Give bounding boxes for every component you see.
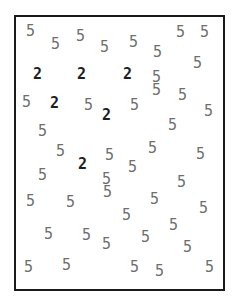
- distractor-glyph: 5: [62, 258, 71, 274]
- target-glyph: 2: [123, 67, 132, 83]
- distractor-glyph: 5: [26, 194, 35, 210]
- distractor-glyph: 5: [103, 185, 112, 201]
- distractor-glyph: 5: [130, 260, 139, 276]
- distractor-glyph: 5: [199, 201, 208, 217]
- distractor-glyph: 5: [100, 40, 109, 56]
- distractor-glyph: 5: [44, 227, 53, 243]
- distractor-glyph: 5: [84, 98, 93, 114]
- distractor-glyph: 5: [177, 175, 186, 191]
- distractor-glyph: 5: [51, 37, 60, 53]
- distractor-glyph: 5: [152, 83, 161, 99]
- target-glyph: 2: [33, 67, 42, 83]
- target-glyph: 2: [50, 96, 59, 112]
- distractor-glyph: 5: [150, 192, 159, 208]
- distractor-glyph: 5: [82, 228, 91, 244]
- target-glyph: 2: [77, 67, 86, 83]
- distractor-glyph: 5: [56, 144, 65, 160]
- distractor-glyph: 5: [155, 264, 164, 280]
- distractor-glyph: 5: [76, 29, 85, 45]
- distractor-glyph: 5: [178, 88, 187, 104]
- distractor-glyph: 5: [176, 25, 185, 41]
- distractor-glyph: 5: [168, 118, 177, 134]
- distractor-glyph: 5: [204, 104, 213, 120]
- distractor-glyph: 5: [105, 148, 114, 164]
- distractor-glyph: 5: [129, 35, 138, 51]
- distractor-glyph: 5: [38, 168, 47, 184]
- distractor-glyph: 5: [153, 45, 162, 61]
- distractor-glyph: 5: [22, 95, 31, 111]
- distractor-glyph: 5: [122, 208, 131, 224]
- distractor-glyph: 5: [148, 141, 157, 157]
- distractor-glyph: 5: [193, 56, 202, 72]
- distractor-glyph: 5: [26, 24, 35, 40]
- distractor-glyph: 5: [141, 230, 150, 246]
- distractor-glyph: 5: [66, 195, 75, 211]
- distractor-glyph: 5: [196, 147, 205, 163]
- target-glyph: 2: [78, 157, 87, 173]
- distractor-glyph: 5: [205, 260, 214, 276]
- target-glyph: 2: [102, 108, 111, 124]
- distractor-glyph: 5: [128, 160, 137, 176]
- distractor-glyph: 5: [102, 237, 111, 253]
- distractor-glyph: 5: [24, 260, 33, 276]
- distractor-glyph: 5: [38, 124, 47, 140]
- distractor-glyph: 5: [130, 98, 139, 114]
- distractor-glyph: 5: [183, 240, 192, 256]
- distractor-glyph: 5: [169, 218, 178, 234]
- distractor-glyph: 5: [200, 25, 209, 41]
